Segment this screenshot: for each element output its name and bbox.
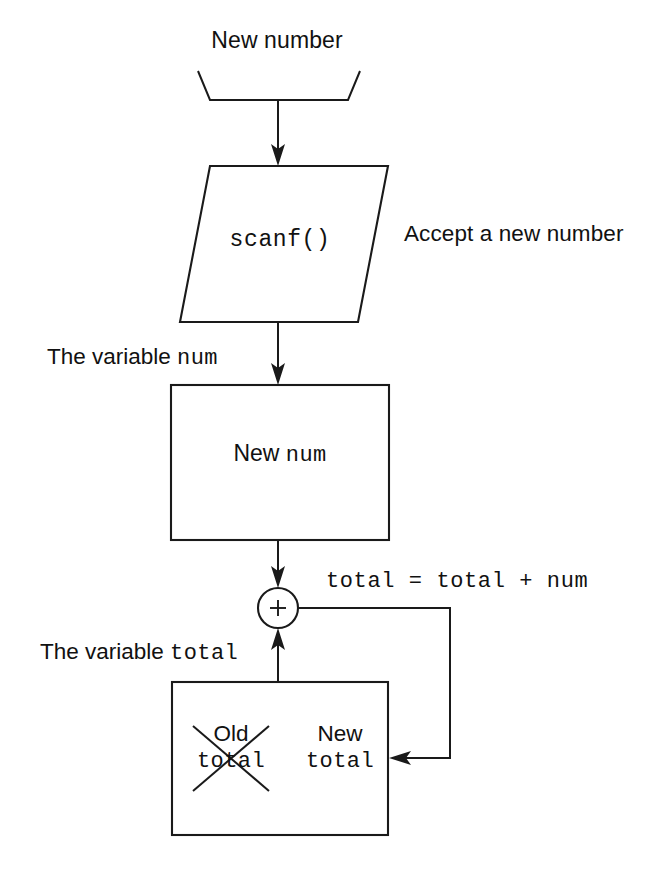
total-box-caption-text: The variable bbox=[40, 639, 170, 664]
input-funnel-caption: New number bbox=[0, 28, 554, 52]
num-box-caption: The variable num bbox=[47, 345, 218, 370]
input-funnel-shape bbox=[198, 71, 360, 100]
total-box-caption: The variable total bbox=[40, 640, 238, 665]
edge-scanf-to-num bbox=[271, 322, 285, 385]
total-box-caption-code: total bbox=[170, 641, 238, 666]
old-total-label: Oldtotal bbox=[176, 722, 286, 773]
num-box-caption-code: num bbox=[177, 346, 218, 371]
adder-circle-shape bbox=[258, 588, 298, 628]
num-box-caption-text: The variable bbox=[47, 344, 177, 369]
edge-funnel-to-scanf bbox=[271, 100, 285, 166]
new-total-label: Newtotal bbox=[284, 722, 396, 773]
num-box-label: New num bbox=[171, 441, 389, 467]
edge-num-to-adder bbox=[271, 540, 285, 588]
new-total-code: total bbox=[284, 750, 396, 773]
plus-icon bbox=[270, 600, 286, 616]
num-box-label-word: New bbox=[233, 440, 285, 466]
accumulator-expression: total = total + num bbox=[326, 570, 588, 593]
new-total-word: New bbox=[317, 721, 362, 746]
scanf-annotation: Accept a new number bbox=[404, 222, 624, 246]
old-total-word: Old bbox=[213, 721, 248, 746]
num-box-label-code: num bbox=[286, 443, 327, 468]
flowchart-canvas: New number scanf() Accept a new number T… bbox=[0, 0, 660, 879]
old-total-code: total bbox=[176, 750, 286, 773]
edge-total-to-adder bbox=[271, 628, 285, 682]
